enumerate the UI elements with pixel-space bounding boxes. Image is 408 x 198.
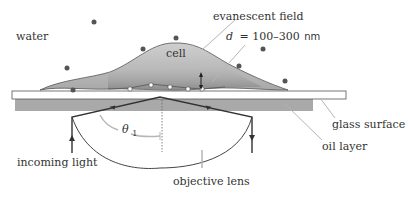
molecule-dot [237, 64, 242, 69]
ray-arrow-outgoing [249, 135, 255, 141]
molecule-dot [283, 79, 288, 84]
glass-surface [12, 91, 346, 99]
label-cell: cell [166, 47, 186, 60]
label-incoming-light: incoming light [17, 156, 98, 169]
molecule-dot [174, 36, 179, 41]
tirf-microscopy-diagram: water cell evanescent field d = 100–300 … [0, 0, 408, 198]
label-objective-lens: objective lens [173, 175, 250, 188]
molecule-dot [141, 47, 146, 52]
oil-layer [15, 99, 313, 111]
molecule-dot [65, 66, 70, 71]
label-depth: d = 100–300 nm [226, 30, 320, 43]
membrane-marker [186, 87, 190, 91]
depth-unit: nm [304, 31, 320, 42]
depth-equation: = 100–300 [240, 30, 300, 43]
angle-arc [100, 115, 118, 130]
label-evanescent-field: evanescent field [213, 10, 304, 23]
label-angle: θ 1 [122, 123, 137, 138]
molecule-dot [261, 47, 266, 52]
leader-glass [320, 98, 335, 118]
membrane-marker [128, 87, 132, 91]
angle-symbol: θ [122, 123, 129, 136]
membrane-marker [149, 83, 153, 87]
angle-subscript: 1 [132, 129, 137, 138]
label-oil-layer: oil layer [322, 140, 368, 153]
label-glass-surface: glass surface [332, 118, 405, 131]
molecule-dot [92, 20, 97, 25]
ray-arrow-incoming [69, 135, 75, 141]
membrane-marker [168, 85, 172, 89]
label-water: water [16, 30, 49, 43]
molecule-dot [71, 88, 76, 93]
depth-variable: d [226, 30, 233, 43]
